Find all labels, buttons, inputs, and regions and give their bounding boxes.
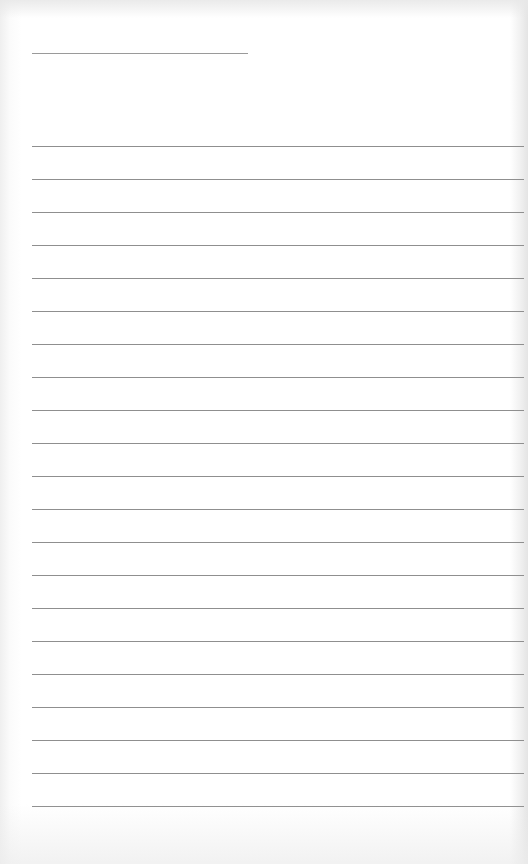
lined-paper-page <box>0 0 528 864</box>
ruled-line-text <box>32 776 524 805</box>
ruled-line-text <box>32 182 524 211</box>
ruled-line-text <box>32 644 524 673</box>
ruled-line-text <box>32 677 524 706</box>
ruled-line-text <box>32 314 524 343</box>
ruled-line-text <box>32 479 524 508</box>
ruled-line-text <box>32 347 524 376</box>
ruled-line-text <box>32 215 524 244</box>
ruled-lines <box>32 146 524 839</box>
header-title-line <box>32 53 248 54</box>
ruled-line-text <box>32 710 524 739</box>
ruled-line-text <box>32 116 524 145</box>
ruled-line-text <box>32 281 524 310</box>
ruled-line-text <box>32 545 524 574</box>
ruled-line-text <box>32 149 524 178</box>
ruled-line-text <box>32 743 524 772</box>
ruled-line-text <box>32 413 524 442</box>
ruled-line-text <box>32 578 524 607</box>
ruled-line-text <box>32 248 524 277</box>
ruled-line-text <box>32 611 524 640</box>
ruled-line <box>32 806 524 839</box>
ruled-line-text <box>32 512 524 541</box>
ruled-line-text <box>32 380 524 409</box>
ruled-line-text <box>32 446 524 475</box>
